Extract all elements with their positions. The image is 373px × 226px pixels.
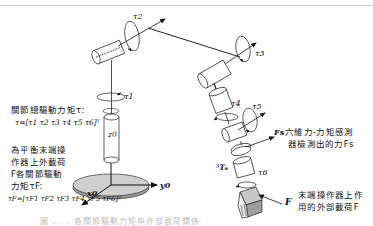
tau3-label: τ3 [255, 48, 265, 59]
external-load-line2: 用的外部載荷F [298, 202, 359, 213]
link6-cylinder [232, 155, 254, 178]
z0-label: z0 [108, 129, 117, 140]
forearm-cylinder [208, 86, 233, 114]
joint3-cylinder [196, 60, 231, 90]
transform-label: ⁵T₆ [216, 162, 228, 173]
sensor-line1: 六維力-力矩感測 [285, 127, 353, 138]
tau2-label: τ2 [133, 11, 143, 22]
tau6-rotation-icon [238, 182, 256, 188]
sensor-line2: 器檢測出的力Fs [288, 139, 354, 150]
external-force-symbol: F [285, 197, 291, 208]
joint2-cylinder [90, 40, 124, 65]
force-sensor-disk [230, 142, 251, 158]
tau5-label: τ5 [252, 101, 262, 112]
balance-torque-line1: 為平衡末端操 [11, 145, 67, 156]
tau1-label: τ1 [124, 91, 134, 102]
balance-torque-line3: F各關節驅動 [11, 169, 63, 180]
tau3-rotation-icon [234, 35, 252, 63]
y0-label: y0 [160, 180, 170, 191]
sensor-force-symbol: Fs [274, 127, 284, 138]
sensor-force-arrow [246, 137, 274, 147]
figure-caption: 圖 . . . 各關節驅動力矩與外部載荷關係 [40, 215, 200, 226]
joint-torque-vector: τ=[τ1 τ2 τ3 τ4 τ5 τ6]ᵀ [15, 117, 100, 128]
tau4-label: τ4 [231, 98, 241, 109]
joint-torque-title: 關節總驅動力矩τ: [11, 105, 85, 116]
tau2-rotation-icon [123, 20, 142, 52]
upper-arm-link [148, 28, 240, 57]
external-load-line1: 末端操作器上作 [298, 190, 363, 201]
balance-torque-line2: 作器上外載荷 [11, 157, 67, 168]
balance-torque-vector: τF=[τF1 τF2 τF3 τF4 τF5 τF6]ᵀ [8, 194, 121, 205]
balance-torque-line4: 力矩τF: [11, 181, 43, 192]
wrist-cylinder [220, 122, 246, 143]
end-effector-gripper [238, 187, 262, 218]
external-force-arrow [259, 195, 282, 204]
tau6-label: τ6 [258, 167, 268, 178]
tau1-rotation-icon [97, 93, 125, 101]
